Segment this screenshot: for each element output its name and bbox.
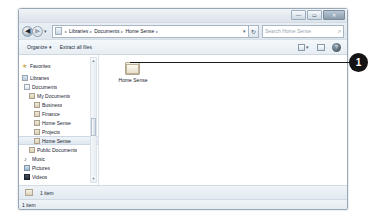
breadcrumb-item-documents[interactable]: Documents [93,28,120,34]
help-button[interactable]: ? [330,42,343,53]
sidebar-item-libraries[interactable]: Libraries [19,73,98,82]
sidebar-item-label: Libraries [30,75,49,81]
sidebar-item-projects[interactable]: Projects [19,127,98,136]
address-bar: ◀ ▶ ▾ ▸ Libraries ▸ Documents ▸ Home Sen… [19,23,347,40]
sidebar-item-home-sense-selected[interactable]: Home Sense [19,136,98,145]
pictures-icon [24,165,30,171]
folder-icon [25,188,34,197]
sidebar-item-public-documents[interactable]: Public Documents [19,145,98,154]
folder-icon [34,120,40,126]
sidebar-item-label: Finance [42,111,60,117]
change-view-button[interactable]: ▾ [298,42,311,53]
content-pane[interactable]: Home Sense [99,55,347,185]
star-icon: ★ [22,63,28,69]
sidebar-item-label: Public Documents [37,147,77,153]
details-item-count: 1 item [40,190,54,196]
sidebar-item-documents[interactable]: Documents [19,82,98,91]
breadcrumb[interactable]: ▸ Libraries ▸ Documents ▸ Home Sense ▸ ▾ [52,25,249,38]
breadcrumb-item-libraries[interactable]: Libraries [68,28,89,34]
chevron-down-icon: ▾ [306,44,309,50]
forward-button[interactable]: ▶ [32,26,43,37]
help-icon: ? [332,43,341,52]
sidebar-item-label: Business [42,102,62,108]
folder-icon [34,102,40,108]
scroll-down-icon[interactable]: ▼ [91,176,96,182]
close-button[interactable]: ✕ [323,10,345,20]
status-item-count: 1 item [22,202,36,208]
status-bar: 1 item [19,199,347,209]
breadcrumb-sep-3: ▸ [155,29,159,34]
window-controls: — ▭ ✕ [291,10,345,20]
history-dropdown-icon[interactable]: ▾ [44,28,47,34]
sidebar-item-label: My Documents [37,93,70,99]
sidebar-item-favorites[interactable]: ★ Favorites [19,61,98,70]
folder-icon [125,61,141,75]
list-item[interactable]: Home Sense [109,61,157,83]
sidebar-item-my-documents[interactable]: My Documents [19,91,98,100]
sidebar-item-music[interactable]: ♪ Music [19,154,98,163]
sidebar-item-videos[interactable]: Videos [19,172,98,181]
search-input[interactable]: Search Home Sense [265,28,338,34]
callout-leader-line [130,62,352,63]
folder-icon [29,147,35,153]
sidebar-item-finance[interactable]: Finance [19,109,98,118]
view-layout-icon [298,44,305,51]
sidebar-item-pictures[interactable]: Pictures [19,163,98,172]
organize-button[interactable]: Organize ▾ [23,42,56,52]
music-icon: ♪ [24,156,30,162]
sidebar-item-home-sense-nested[interactable]: Home Sense [19,118,98,127]
navigation-pane-scrollbar[interactable]: ▲ ▼ [90,57,97,183]
refresh-button[interactable]: ↻ [249,25,259,38]
sidebar-item-label: Projects [42,129,60,135]
preview-pane-button[interactable] [314,42,327,53]
list-item-label: Home Sense [119,77,148,83]
sidebar-item-label: Documents [32,84,57,90]
breadcrumb-item-home-sense[interactable]: Home Sense [124,28,155,34]
maximize-button[interactable]: ▭ [307,10,322,20]
sidebar-item-business[interactable]: Business [19,100,98,109]
callout-badge-1: 1 [349,53,368,72]
sidebar-item-label: Music [32,156,45,162]
explorer-window: — ▭ ✕ ◀ ▶ ▾ ▸ Libraries ▸ Documents ▸ Ho… [18,8,348,210]
folder-icon [34,111,40,117]
navigation-pane: ★ Favorites Libraries Documents My Docum… [19,55,99,185]
sidebar-item-label: Home Sense [42,138,71,144]
search-icon: ⌕ [338,28,341,35]
breadcrumb-dropdown-icon[interactable]: ▾ [240,28,246,34]
window-body: ★ Favorites Libraries Documents My Docum… [19,55,347,185]
sidebar-item-label: Favorites [30,63,51,69]
scroll-up-icon[interactable]: ▲ [91,58,96,64]
minimize-button[interactable]: — [291,10,306,20]
folder-icon [29,93,35,99]
sidebar-item-label: Pictures [32,165,50,171]
documents-library-icon [24,84,30,90]
folder-icon [34,138,40,144]
folder-icon [34,129,40,135]
sidebar-item-label: Home Sense [42,120,71,126]
details-pane: 1 item [19,185,347,199]
extract-all-files-button[interactable]: Extract all files [56,42,96,52]
library-icon [22,75,28,81]
preview-pane-icon [317,44,325,51]
breadcrumb-folder-icon [55,27,62,35]
navigation-buttons: ◀ ▶ ▾ [22,26,49,37]
title-bar: — ▭ ✕ [19,9,347,23]
scrollbar-thumb[interactable] [91,118,96,136]
search-box[interactable]: Search Home Sense ⌕ [262,25,344,38]
sidebar-item-label: Videos [32,174,47,180]
videos-icon [24,174,30,180]
toolbar: Organize ▾ Extract all files ▾ ? [19,40,347,55]
